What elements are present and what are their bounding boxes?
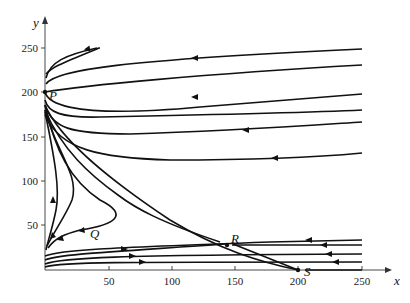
x-ticks: 50 100 150 200 250 xyxy=(104,266,371,287)
arrow-icon xyxy=(50,196,56,203)
label-p: P xyxy=(48,88,57,103)
trajectory xyxy=(46,49,362,84)
arrow-icon xyxy=(129,253,136,259)
arrow-icon xyxy=(191,94,198,100)
y-tick-label: 150 xyxy=(22,131,39,143)
point-r xyxy=(225,243,229,247)
trajectory xyxy=(45,92,362,111)
y-tick-label: 250 xyxy=(22,42,39,54)
point-p xyxy=(43,90,47,94)
arrow-icon xyxy=(242,127,249,133)
point-s xyxy=(296,268,300,272)
x-tick-label: 150 xyxy=(227,275,244,287)
label-q: Q xyxy=(90,226,100,241)
trajectory xyxy=(45,100,362,117)
arrow-icon xyxy=(271,155,278,161)
phase-portrait-svg: 50 100 150 200 250 50 100 150 200 250 x … xyxy=(0,0,410,303)
trajectory xyxy=(45,262,362,267)
y-ticks: 50 100 150 200 250 xyxy=(22,42,46,231)
arrow-icon xyxy=(139,259,146,265)
x-axis-label: x xyxy=(393,273,400,288)
y-tick-label: 200 xyxy=(22,86,39,98)
trajectory xyxy=(46,48,100,74)
arrow-icon xyxy=(325,251,332,257)
separatrix xyxy=(233,244,298,270)
x-axis-arrow-icon xyxy=(385,267,392,273)
arrow-icon xyxy=(332,259,339,265)
arrow-icon xyxy=(191,55,198,61)
x-tick-label: 100 xyxy=(164,275,181,287)
y-axis-arrow-icon xyxy=(42,16,48,24)
trajectory xyxy=(45,105,362,134)
y-tick-label: 100 xyxy=(22,175,39,187)
y-axis-label: y xyxy=(31,15,39,30)
arrow-icon xyxy=(305,237,312,243)
arrow-icon xyxy=(320,242,327,248)
label-r: R xyxy=(230,231,239,246)
trajectory xyxy=(45,244,225,260)
label-s: S xyxy=(304,264,311,279)
phase-portrait: 50 100 150 200 250 50 100 150 200 250 x … xyxy=(0,0,410,303)
x-tick-label: 250 xyxy=(354,275,371,287)
x-tick-label: 50 xyxy=(104,275,116,287)
trajectory xyxy=(45,115,362,160)
y-tick-label: 50 xyxy=(27,219,39,231)
